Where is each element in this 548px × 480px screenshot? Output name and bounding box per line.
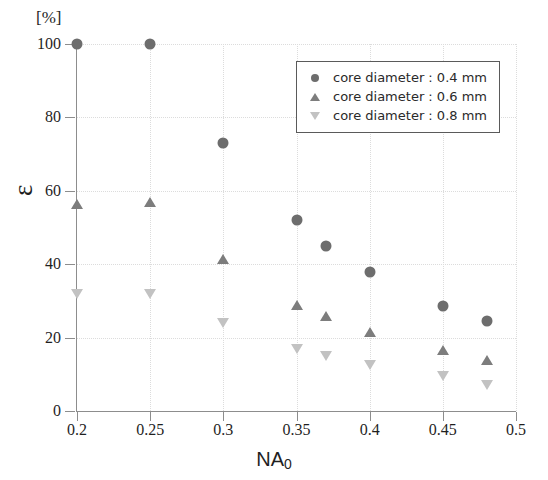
legend-marker-circle-icon <box>307 74 323 82</box>
data-point <box>71 199 83 209</box>
data-point <box>364 266 375 277</box>
x-axis-tick <box>443 412 444 421</box>
data-point <box>320 351 332 361</box>
legend-entry: core diameter : 0.4 mm <box>307 68 487 87</box>
x-axis-tick-label: 0.25 <box>136 421 164 439</box>
legend-entry-label: core diameter : 0.4 mm <box>333 70 487 85</box>
legend-entry: core diameter : 0.8 mm <box>307 106 487 125</box>
x-axis-tick-label: 0.35 <box>283 421 311 439</box>
x-axis-tick <box>297 412 298 421</box>
x-axis-tick-label: 0.3 <box>213 421 233 439</box>
y-axis-unit-label: [%] <box>36 8 61 28</box>
x-axis-tick <box>150 412 151 421</box>
data-point <box>72 39 83 50</box>
legend-marker-triangle-down-icon <box>307 112 323 120</box>
data-point <box>218 138 229 149</box>
x-axis-tick-label: 0.2 <box>67 421 87 439</box>
x-axis-tick <box>370 412 371 421</box>
y-axis-tick <box>65 264 75 265</box>
legend-marker-triangle-up-icon <box>307 93 323 101</box>
y-axis-tick-label: 60 <box>45 182 61 200</box>
legend-entry-label: core diameter : 0.6 mm <box>333 89 487 104</box>
y-axis-tick-label: 0 <box>53 402 61 420</box>
data-point <box>364 327 376 337</box>
y-axis-tick-label: 20 <box>45 329 61 347</box>
gridline-vertical <box>516 44 517 411</box>
y-axis-title: ε <box>8 185 39 196</box>
data-point <box>217 318 229 328</box>
gridline-vertical <box>223 44 224 411</box>
y-axis-tick <box>65 411 75 412</box>
data-point <box>481 380 493 390</box>
data-point <box>217 254 229 264</box>
x-axis-title-subscript: 0 <box>284 456 292 472</box>
y-axis-tick <box>65 117 75 118</box>
data-point <box>437 301 448 312</box>
data-point <box>71 289 83 299</box>
data-point <box>291 215 302 226</box>
x-axis-tick-label: 0.45 <box>429 421 457 439</box>
data-point <box>481 316 492 327</box>
data-point <box>144 289 156 299</box>
x-axis-tick <box>223 412 224 421</box>
x-axis-tick <box>516 412 517 421</box>
chart-legend: core diameter : 0.4 mmcore diameter : 0.… <box>296 61 500 133</box>
y-axis-tick-label: 40 <box>45 255 61 273</box>
data-point <box>364 360 376 370</box>
x-axis-title: NA0 <box>0 448 548 471</box>
data-point <box>437 371 449 381</box>
data-point <box>144 197 156 207</box>
data-point <box>320 311 332 321</box>
x-axis-tick-label: 0.4 <box>360 421 380 439</box>
gridline-vertical <box>150 44 151 411</box>
legend-entry: core diameter : 0.6 mm <box>307 87 487 106</box>
y-axis-tick-label: 80 <box>45 108 61 126</box>
scatter-chart-figure: [%] ε 0204060801000.20.250.30.350.40.450… <box>0 0 548 480</box>
x-axis-title-main: NA <box>256 448 284 470</box>
data-point <box>481 355 493 365</box>
y-axis-tick-label: 100 <box>37 35 61 53</box>
data-point <box>291 344 303 354</box>
y-axis-tick <box>65 191 75 192</box>
data-point <box>320 240 331 251</box>
data-point <box>291 300 303 310</box>
x-axis-tick-label: 0.5 <box>506 421 526 439</box>
data-point <box>145 39 156 50</box>
data-point <box>437 345 449 355</box>
legend-entry-label: core diameter : 0.8 mm <box>333 108 487 123</box>
x-axis-tick <box>77 412 78 421</box>
y-axis-tick <box>65 338 75 339</box>
